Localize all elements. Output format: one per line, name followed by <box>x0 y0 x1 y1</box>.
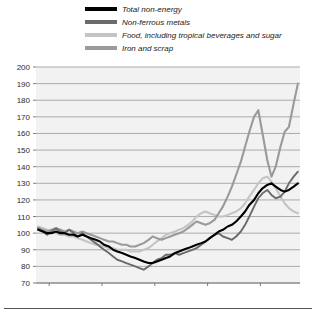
y-tick-label: 200 <box>17 63 31 72</box>
chart-svg: 708090100110120130140150160170180190200 … <box>0 56 316 291</box>
x-tick-label: 2003 <box>199 290 217 291</box>
x-tick-label: 2002 <box>146 290 164 291</box>
figure-bottom-rule <box>4 308 312 309</box>
y-tick-label: 170 <box>17 113 31 122</box>
legend-swatch-icon <box>85 33 117 37</box>
legend-label: Non-ferrous metals <box>122 18 190 27</box>
y-tick-label: 190 <box>17 80 31 89</box>
y-tick-label: 70 <box>21 279 30 288</box>
y-axis-ticks: 708090100110120130140150160170180190200 <box>17 63 36 288</box>
legend-label: Iron and scrap <box>122 44 173 53</box>
legend-item-food: Food, including tropical beverages and s… <box>85 29 313 41</box>
legend-swatch-icon <box>85 7 117 11</box>
y-tick-label: 150 <box>17 146 31 155</box>
y-tick-label: 140 <box>17 163 31 172</box>
legend-label: Total non-energy <box>122 5 182 14</box>
y-tick-label: 100 <box>17 229 31 238</box>
legend-item-total-non-energy: Total non-energy <box>85 3 313 15</box>
x-axis-ticks: 20002001200220032004 <box>40 283 270 291</box>
y-tick-label: 160 <box>17 129 31 138</box>
x-tick-label: 2000 <box>40 290 58 291</box>
chart-legend: Total non-energy Non-ferrous metals Food… <box>85 3 313 55</box>
y-tick-label: 80 <box>21 262 30 271</box>
plot-background <box>36 67 300 283</box>
x-tick-label: 2004 <box>252 290 270 291</box>
legend-label: Food, including tropical beverages and s… <box>122 31 282 40</box>
y-tick-label: 120 <box>17 196 31 205</box>
y-tick-label: 110 <box>17 213 30 222</box>
plot-area: 708090100110120130140150160170180190200 … <box>0 56 316 291</box>
y-tick-label: 180 <box>17 96 31 105</box>
legend-swatch-icon <box>85 20 117 24</box>
legend-item-non-ferrous-metals: Non-ferrous metals <box>85 16 313 28</box>
y-tick-label: 130 <box>17 179 31 188</box>
legend-swatch-icon <box>85 46 117 50</box>
legend-item-iron-and-scrap: Iron and scrap <box>85 42 313 54</box>
x-tick-label: 2001 <box>93 290 111 291</box>
y-tick-label: 90 <box>21 246 30 255</box>
price-index-line-chart: Total non-energy Non-ferrous metals Food… <box>0 0 316 318</box>
